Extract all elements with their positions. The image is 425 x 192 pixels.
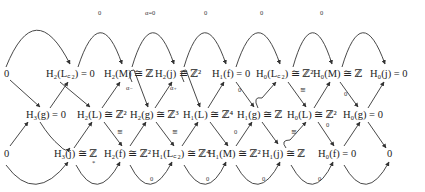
label-bottom-2: 0 bbox=[206, 175, 209, 182]
diag-arrow bbox=[210, 122, 228, 146]
node-m7: H₀(g) = 0 bbox=[343, 109, 383, 121]
node-m4: H₁(L) ≅ ℤ⁴ bbox=[183, 109, 234, 121]
arc-arrow bbox=[342, 33, 385, 67]
label-top-4: 0 bbox=[320, 9, 323, 16]
diag-arrow bbox=[256, 82, 276, 108]
middle-row: H₃(g) = 0 H₂(L) ≅ ℤ² H₂(g) ≅ ℤ³ H₁(L) ≅ … bbox=[26, 109, 383, 121]
node-m1: H₃(g) = 0 bbox=[26, 109, 66, 121]
diag-arrow bbox=[340, 82, 358, 107]
label-diag-5: ≅ bbox=[117, 128, 123, 135]
diag-arrow bbox=[182, 122, 198, 146]
node-t5: H₀(L꜀₂) ≅ ℤ² bbox=[256, 68, 313, 80]
diag-arrow bbox=[74, 122, 92, 148]
label-top-1: α=0 bbox=[145, 9, 155, 16]
arc-arrow bbox=[184, 162, 226, 184]
diag-arrow bbox=[102, 82, 120, 108]
node-t2: H₂(M) ≅ ℤ bbox=[104, 68, 154, 80]
diag-arrow bbox=[262, 122, 278, 144]
arc-arrow bbox=[6, 30, 70, 67]
node-b2: H₂(f) ≅ ℤ² bbox=[104, 148, 151, 160]
lower-diagonals bbox=[10, 122, 386, 150]
node-t3: H₂(j) ≅ ℤ² bbox=[155, 68, 201, 80]
label-bottom-0: * bbox=[92, 159, 95, 166]
node-b5: H₁(j) ≅ ℤ bbox=[262, 148, 305, 160]
diag-arrow bbox=[60, 82, 90, 107]
node-b3: H₁(L꜀₂) ≅ ℤ⁴ bbox=[152, 148, 210, 160]
diag-arrow bbox=[10, 80, 40, 107]
arc-arrow bbox=[293, 33, 332, 67]
top-row: 0 H₂(L꜀₂) = 0 H₂(M) ≅ ℤ H₂(j) ≅ ℤ² H₁(f)… bbox=[4, 68, 408, 80]
node-b0: 0 bbox=[4, 148, 9, 159]
bottom-row: 0 H₃(j) ≅ ℤ H₂(f) ≅ ℤ² H₁(L꜀₂) ≅ ℤ⁴ H₁(M… bbox=[4, 148, 392, 160]
arc-arrow bbox=[6, 162, 68, 184]
label-bottom-3: 0 bbox=[262, 175, 265, 182]
label-diag-1: α₊ bbox=[170, 84, 177, 91]
label-diag-4: 0 bbox=[344, 90, 347, 97]
node-t6: H₀(M) ≅ ℤ bbox=[313, 68, 363, 80]
arc-arrow bbox=[236, 162, 280, 184]
label-top-2: 0 bbox=[204, 9, 207, 16]
arc-arrow bbox=[78, 33, 122, 67]
label-bottom-4: 0 bbox=[318, 175, 321, 182]
top-arcs bbox=[6, 30, 385, 67]
diag-arrow bbox=[40, 122, 70, 150]
exact-sequence-diagram: 0 H₂(L꜀₂) = 0 H₂(M) ≅ ℤ H₂(j) ≅ ℤ² H₁(f)… bbox=[0, 0, 425, 192]
node-b4: H₁(M) ≅ ℤ² bbox=[208, 148, 261, 160]
label-diag-9: 0 bbox=[326, 121, 329, 128]
diag-arrow bbox=[236, 122, 252, 146]
node-m3: H₂(g) ≅ ℤ³ bbox=[130, 109, 179, 121]
label-top-0: 0 bbox=[98, 9, 101, 16]
arc-arrow bbox=[76, 162, 120, 184]
label-diag-2: 0 bbox=[238, 86, 241, 93]
diag-arrow bbox=[130, 122, 146, 146]
diag-arrow bbox=[314, 82, 330, 108]
label-diag-0: α₋ bbox=[126, 84, 133, 91]
arc-arrow bbox=[344, 162, 389, 184]
label-bottom-1: 0 bbox=[150, 175, 153, 182]
node-t1: H₂(L꜀₂) = 0 bbox=[46, 68, 95, 80]
node-t4: H₁(f) = 0 bbox=[212, 68, 250, 80]
label-diag-8: ≅ bbox=[291, 128, 297, 135]
node-b7: 0 bbox=[387, 148, 392, 159]
arc-arrow bbox=[184, 33, 226, 67]
label-diag-3: ≅ bbox=[300, 86, 306, 93]
diag-arrow bbox=[344, 122, 360, 146]
arc-arrow bbox=[236, 33, 280, 67]
node-t7: H₀(j) = 0 bbox=[370, 68, 408, 80]
diag-arrow bbox=[368, 82, 384, 108]
node-m6: H₀(L) ≅ ℤ² bbox=[287, 109, 337, 121]
arc-arrow bbox=[132, 33, 174, 67]
label-diag-7: 0 bbox=[234, 128, 237, 135]
label-top-3: 0 bbox=[260, 9, 263, 16]
diag-arrow bbox=[284, 122, 306, 148]
diag-arrow bbox=[208, 82, 224, 108]
label-diag-6: ≅ bbox=[172, 128, 178, 135]
bottom-arcs bbox=[6, 162, 389, 184]
node-t0: 0 bbox=[4, 68, 9, 79]
node-m5: H₁(g) ≅ ℤ bbox=[237, 109, 283, 121]
diag-arrow bbox=[368, 122, 386, 148]
node-b1: H₃(j) ≅ ℤ bbox=[54, 148, 97, 160]
diag-arrow bbox=[10, 122, 28, 146]
node-m2: H₂(L) ≅ ℤ² bbox=[77, 109, 127, 121]
arc-arrow bbox=[291, 162, 333, 184]
node-b6: H₀(f) = 0 bbox=[318, 148, 356, 160]
